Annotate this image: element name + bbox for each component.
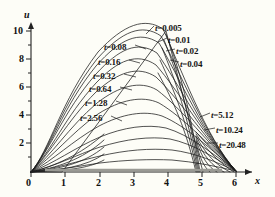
curve-label-t-0.64: t=0.64 (89, 85, 111, 94)
curve-t-0.005 (31, 23, 236, 172)
y-tick-label-6: 6 (19, 82, 24, 92)
solution-curves (31, 23, 236, 172)
curve-label-t-0.04: t=0.04 (180, 60, 202, 69)
y-tick-label-10: 10 (13, 26, 23, 36)
curve-label-t-0.02: t=0.02 (176, 47, 198, 56)
curve-label-t-5.12: t=5.12 (211, 111, 233, 120)
y-tick-label-8: 8 (19, 54, 24, 64)
x-tick-label-1: 1 (61, 178, 66, 188)
diffusion-profiles-figure: 0 1 2 3 4 5 6 10 8 6 4 2 u x t=0.005 t=0… (0, 0, 275, 197)
curve-label-t-0.08: t=0.08 (104, 43, 126, 52)
curve-label-t-1.28: t=1.28 (85, 99, 107, 108)
x-axis-name: x (255, 176, 260, 186)
plot-canvas (0, 0, 275, 197)
y-axis-arrow (28, 22, 34, 29)
x-axis-arrow (245, 169, 252, 175)
leader-t-0.16 (129, 60, 140, 63)
curve-label-t-0.01: t=0.01 (168, 36, 190, 45)
curve-label-t-0.16: t=0.16 (98, 58, 120, 67)
y-tick-label-2: 2 (19, 138, 24, 148)
leader-t-5.12 (200, 113, 210, 117)
x-tick-label-5: 5 (198, 178, 203, 188)
curve-label-t-0.005: t=0.005 (155, 24, 182, 33)
y-tick-label-4: 4 (19, 110, 24, 120)
curve-label-t-20.48: t=20.48 (219, 141, 246, 150)
x-tick-label-4: 4 (164, 178, 169, 188)
curve-t-0.04 (31, 47, 236, 172)
x-tick-label-3: 3 (130, 178, 135, 188)
x-tick-label-0: 0 (26, 178, 31, 188)
y-axis-name: u (24, 10, 30, 20)
curve-label-t-10.24: t=10.24 (216, 126, 243, 135)
curve-label-t-2.56: t=2.56 (80, 114, 102, 123)
curve-label-t-0.32: t=0.32 (93, 72, 115, 81)
y-axis-ticks (26, 31, 31, 157)
x-tick-label-6: 6 (232, 178, 237, 188)
x-tick-label-2: 2 (96, 178, 101, 188)
leader-t-0.04 (170, 60, 179, 62)
